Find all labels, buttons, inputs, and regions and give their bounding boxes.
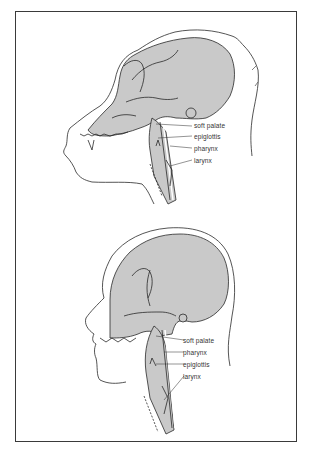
label-ape-epiglottis: epiglottis: [194, 133, 221, 140]
label-ape-soft-palate: soft palate: [194, 122, 225, 129]
ape-head-drawing: [64, 30, 259, 204]
label-ape-larynx: larynx: [194, 157, 212, 164]
label-human-epiglottis: epiglottis: [183, 361, 210, 368]
label-human-pharynx: pharynx: [183, 349, 207, 356]
label-ape-pharynx: pharynx: [194, 145, 218, 152]
label-human-soft-palate: soft palate: [183, 337, 214, 344]
anatomy-illustration: [0, 0, 316, 455]
human-head-drawing: [85, 228, 234, 434]
label-human-larynx: larynx: [183, 373, 201, 380]
